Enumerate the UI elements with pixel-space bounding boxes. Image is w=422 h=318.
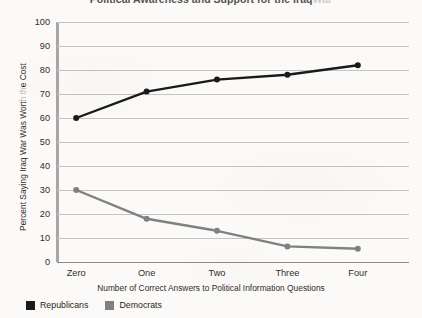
y-axis-tick-label: 100	[35, 17, 50, 27]
data-point	[355, 62, 361, 68]
x-axis-tick-label: Two	[209, 268, 226, 278]
y-axis-tick-label: 40	[40, 161, 50, 171]
chart-figure: Political Awareness and Support for the …	[0, 0, 422, 318]
legend-swatch-icon	[105, 301, 114, 310]
gridline	[57, 262, 409, 263]
data-point	[144, 89, 150, 95]
y-axis-title-main: Percent Saying Iraq War Was Wort	[18, 101, 28, 231]
legend-label: Democrats	[119, 300, 162, 310]
y-axis-tick-label: 10	[40, 233, 50, 243]
y-axis-tick-label: 20	[40, 209, 50, 219]
chart-title-main: Political Awareness and Support for the …	[90, 0, 313, 5]
x-axis-tick-label: Three	[275, 268, 299, 278]
series-line-democrats	[76, 190, 358, 249]
legend-item: Republicans	[26, 300, 88, 310]
y-axis-tick-label: 0	[45, 257, 50, 267]
data-point	[144, 216, 150, 222]
data-series-layer	[57, 22, 409, 262]
x-axis-tick-label: Zero	[67, 268, 86, 278]
series-line-republicans	[76, 65, 358, 118]
y-axis-title-faded: h th	[18, 87, 28, 101]
legend-swatch-icon	[26, 301, 35, 310]
data-point	[284, 72, 290, 78]
legend-label: Republicans	[40, 300, 88, 310]
y-axis-tick-label: 80	[40, 65, 50, 75]
data-point	[73, 187, 79, 193]
plot-area: 0102030405060708090100 ZeroOneTwoThreeFo…	[57, 22, 409, 262]
y-axis-tick-label: 90	[40, 41, 50, 51]
y-axis-tick-label: 60	[40, 113, 50, 123]
y-axis-tick-label: 30	[40, 185, 50, 195]
chart-title: Political Awareness and Support for the …	[0, 0, 422, 5]
data-point	[214, 77, 220, 83]
data-point	[73, 115, 79, 121]
data-point	[284, 243, 290, 249]
chart-legend: RepublicansDemocrats	[26, 300, 162, 310]
y-axis-tick-label: 50	[40, 137, 50, 147]
x-axis-title: Number of Correct Answers to Political I…	[0, 283, 422, 293]
y-axis-tick-label: 70	[40, 89, 50, 99]
data-point	[355, 246, 361, 252]
y-axis-title: Percent Saying Iraq War Was Worth the Co…	[18, 31, 28, 263]
x-axis-tick-label: Four	[348, 268, 367, 278]
y-axis-title-end: e Cost	[18, 63, 28, 87]
x-axis-tick-label: One	[138, 268, 155, 278]
legend-item: Democrats	[105, 300, 162, 310]
data-point	[214, 228, 220, 234]
chart-title-tail: War	[313, 0, 333, 5]
